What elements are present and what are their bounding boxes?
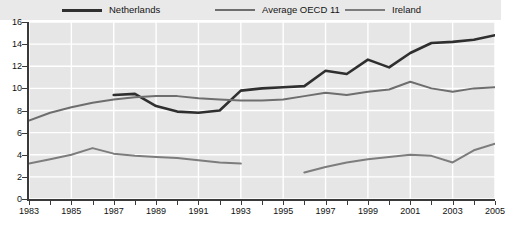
x-tick-label-1989: 1989 — [146, 206, 166, 216]
x-tick-label-1991: 1991 — [188, 206, 208, 216]
x-tick-label-2001: 2001 — [400, 206, 420, 216]
y-tick-label-16: 16 — [12, 17, 22, 27]
x-tick-1997 — [326, 201, 327, 205]
x-tick-label-1983: 1983 — [19, 206, 39, 216]
x-axis-line — [27, 199, 495, 201]
x-tick-label-1999: 1999 — [358, 206, 378, 216]
y-tick-2 — [22, 177, 28, 178]
legend-item-ireland: Ireland — [345, 0, 421, 20]
legend-line-icon-average-oecd-11 — [215, 9, 255, 11]
x-tick-2003 — [453, 201, 454, 205]
legend-item-netherlands: Netherlands — [62, 0, 160, 20]
x-tick-label-2005: 2005 — [485, 206, 505, 216]
y-tick-label-12: 12 — [12, 61, 22, 71]
x-tick-1986 — [93, 201, 94, 205]
y-tick-8 — [22, 111, 28, 112]
plot-area — [29, 22, 495, 199]
y-tick-label-14: 14 — [12, 39, 22, 49]
legend-label-average-oecd-11: Average OECD 11 — [262, 0, 340, 20]
chart-legend: Netherlands Average OECD 11 Ireland — [0, 0, 501, 20]
y-tick-label-2: 2 — [17, 172, 22, 182]
x-tick-1985 — [71, 201, 72, 205]
y-tick-6 — [22, 133, 28, 134]
x-tick-label-1995: 1995 — [273, 206, 293, 216]
legend-line-icon-netherlands — [62, 9, 102, 12]
x-tick-1987 — [114, 201, 115, 205]
x-tick-label-1985: 1985 — [61, 206, 81, 216]
plot-wrapper: 0246810121416 19831985198719891991199319… — [0, 20, 501, 226]
x-tick-1990 — [177, 201, 178, 205]
y-tick-12 — [22, 66, 28, 67]
data-series-lines — [29, 22, 495, 199]
x-tick-1989 — [156, 201, 157, 205]
legend-line-icon-ireland — [345, 9, 385, 11]
x-tick-label-1997: 1997 — [316, 206, 336, 216]
x-tick-1983 — [29, 201, 30, 205]
x-tick-2004 — [474, 201, 475, 205]
legend-label-ireland: Ireland — [392, 0, 421, 20]
x-tick-1984 — [50, 201, 51, 205]
x-tick-2000 — [389, 201, 390, 205]
y-tick-label-6: 6 — [17, 128, 22, 138]
legend-label-netherlands: Netherlands — [109, 0, 160, 20]
x-tick-1988 — [135, 201, 136, 205]
y-tick-0 — [22, 199, 28, 200]
y-tick-label-0: 0 — [17, 194, 22, 204]
x-tick-1992 — [220, 201, 221, 205]
x-tick-2005 — [495, 201, 496, 205]
legend-item-average-oecd-11: Average OECD 11 — [215, 0, 340, 20]
x-tick-label-1993: 1993 — [231, 206, 251, 216]
x-tick-label-1987: 1987 — [104, 206, 124, 216]
y-tick-label-4: 4 — [17, 150, 22, 160]
y-tick-14 — [22, 44, 28, 45]
y-tick-16 — [22, 22, 28, 23]
x-tick-2002 — [431, 201, 432, 205]
x-tick-1999 — [368, 201, 369, 205]
y-tick-label-10: 10 — [12, 83, 22, 93]
x-tick-label-2003: 2003 — [443, 206, 463, 216]
y-tick-10 — [22, 88, 28, 89]
x-tick-1993 — [241, 201, 242, 205]
y-tick-4 — [22, 155, 28, 156]
y-tick-label-8: 8 — [17, 106, 22, 116]
x-tick-1994 — [262, 201, 263, 205]
x-tick-1991 — [198, 201, 199, 205]
x-tick-1998 — [347, 201, 348, 205]
x-tick-2001 — [410, 201, 411, 205]
x-tick-1995 — [283, 201, 284, 205]
x-tick-1996 — [304, 201, 305, 205]
